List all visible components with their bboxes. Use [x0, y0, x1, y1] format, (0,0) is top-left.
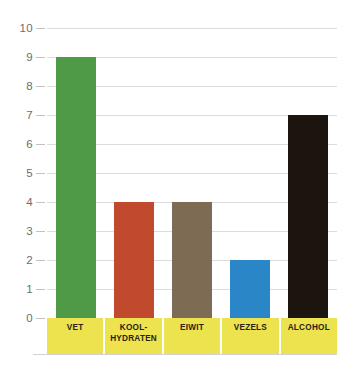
y-axis-tick-label: 9: [26, 51, 33, 63]
category-axis-strip: VETKOOL- HYDRATENEIWITVEZELSALCOHOL: [47, 318, 337, 354]
y-axis-tick-mark: [36, 86, 45, 87]
category-cell: VEZELS: [222, 318, 280, 354]
category-label: VEZELS: [234, 323, 267, 334]
y-axis-tick-mark: [36, 28, 45, 29]
category-cell: KOOL- HYDRATEN: [105, 318, 163, 354]
y-axis-tick-label: 6: [26, 138, 33, 150]
y-axis-tick-mark: [36, 115, 45, 116]
category-label: EIWIT: [180, 323, 204, 334]
category-cell: VET: [47, 318, 105, 354]
y-axis-tick-label: 5: [26, 167, 33, 179]
y-axis-tick-mark: [36, 144, 45, 145]
y-axis-tick-label: 10: [20, 22, 33, 34]
y-axis-tick-label: 1: [26, 283, 33, 295]
y-axis-tick-mark: [36, 202, 45, 203]
y-axis-tick-mark: [36, 231, 45, 232]
bar-chart: 109876543210 VETKOOL- HYDRATENEIWITVEZEL…: [0, 0, 359, 369]
category-label: VET: [67, 323, 84, 334]
bar: [172, 202, 212, 318]
y-axis-tick-label: 7: [26, 109, 33, 121]
gridline: [47, 28, 337, 29]
y-axis-tick-mark: [36, 318, 45, 319]
y-axis-tick-mark: [36, 57, 45, 58]
y-axis-tick-mark: [36, 173, 45, 174]
y-axis-tick-label: 0: [26, 312, 33, 324]
bar: [114, 202, 154, 318]
category-label: ALCOHOL: [288, 323, 330, 334]
y-axis-tick-mark: [36, 289, 45, 290]
plot-area: 109876543210: [47, 28, 337, 318]
y-axis-tick-label: 2: [26, 254, 33, 266]
category-label: KOOL- HYDRATEN: [110, 323, 157, 344]
y-axis-tick-mark: [36, 260, 45, 261]
axis-underline: [33, 354, 337, 355]
bar: [288, 115, 328, 318]
y-axis-tick-label: 8: [26, 80, 33, 92]
y-axis-tick-label: 3: [26, 225, 33, 237]
bar: [230, 260, 270, 318]
category-cell: ALCOHOL: [281, 318, 337, 354]
category-cell: EIWIT: [164, 318, 222, 354]
y-axis-tick-label: 4: [26, 196, 33, 208]
bar: [56, 57, 96, 318]
